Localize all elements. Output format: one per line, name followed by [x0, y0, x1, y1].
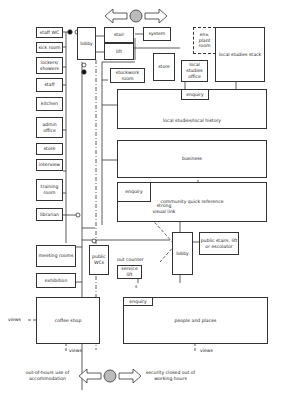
room-lobby-top: lobby: [77, 27, 96, 60]
room-store-top: store: [153, 53, 175, 81]
room-system: system: [143, 27, 171, 41]
room-exhibition: exhibition: [36, 273, 76, 288]
room-public-stairs: public stairs, lift or escolator: [199, 232, 239, 255]
room-business: business: [117, 140, 267, 178]
room-service-lift: service lift: [117, 265, 142, 279]
room-staff: staff: [36, 78, 63, 92]
room-sick-room: sick room: [36, 42, 63, 53]
room-lift: lift: [104, 43, 134, 60]
room-lockers-showers: lockers/ showers: [36, 57, 63, 74]
room-staff-wc: staff WC: [36, 27, 63, 38]
room-coffee-shop: coffee shop: [36, 297, 100, 344]
room-env-plant: env. plant room: [193, 27, 216, 54]
views-people-label: views: [200, 348, 213, 354]
room-kitchen: kitchen: [36, 97, 63, 111]
room-stair: stair: [104, 27, 134, 43]
views-left-label: views: [8, 317, 21, 323]
views-coffee-label: views: [69, 348, 82, 354]
room-librarian: librarian: [36, 208, 63, 221]
enquiry-people: enquiry: [123, 297, 153, 306]
room-lobby-bottom: lobby: [172, 232, 193, 275]
room-admin-office: admin office: [36, 117, 63, 138]
room-local-studies-stack: local studies stack: [215, 27, 265, 82]
room-interview: interview: [36, 159, 63, 171]
room-stockwork: stockwork room: [110, 68, 145, 83]
room-public-wcs: public WCs: [89, 245, 109, 275]
room-meeting-rooms: meeting rooms: [36, 245, 76, 267]
bottom-entrance-arrow: [79, 368, 141, 382]
room-store-left: store: [36, 143, 63, 155]
security-closed-label: security closed out of working hours: [143, 370, 198, 381]
out-counter-label: out counter: [117, 257, 144, 263]
top-entrance-arrow: [105, 8, 167, 22]
enquiry-local: enquiry: [181, 89, 209, 100]
s-label: s: [135, 284, 137, 290]
strong-visual-link-label: strong visual link: [150, 203, 178, 214]
room-local-studies-office: local studies office: [181, 60, 208, 82]
enquiry-cqr: enquiry: [117, 182, 151, 202]
out-of-hours-label: out-of-hours use of accommodation: [20, 370, 75, 381]
room-training-room: training room: [36, 179, 63, 201]
